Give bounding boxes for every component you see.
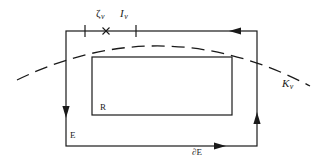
- arrowhead-bottom-right: [214, 142, 226, 149]
- label-k-v: Kv: [282, 78, 293, 91]
- label-zeta-v-subscript: v: [101, 12, 105, 21]
- label-region-E: E: [70, 131, 76, 140]
- inner-rectangle-R: [92, 57, 232, 115]
- label-k-v-subscript: v: [289, 82, 293, 91]
- arrowhead-top-left: [229, 27, 241, 34]
- label-i-v: Iv: [120, 8, 128, 21]
- outer-rectangle-E: [66, 31, 257, 146]
- label-i-v-subscript: v: [124, 12, 128, 21]
- figure-container: ζv Iv Kv R E ∂E: [0, 0, 326, 168]
- arrowhead-left-down: [62, 106, 69, 118]
- label-zeta-v: ζv: [96, 8, 105, 21]
- label-boundary-dE: ∂E: [192, 148, 202, 157]
- label-region-R: R: [100, 103, 106, 112]
- arrowhead-right-up: [253, 112, 260, 124]
- label-zeta-v-base: ζ: [96, 7, 101, 19]
- diagram-canvas: [0, 0, 326, 168]
- dashed-curve-Kv: [17, 46, 310, 86]
